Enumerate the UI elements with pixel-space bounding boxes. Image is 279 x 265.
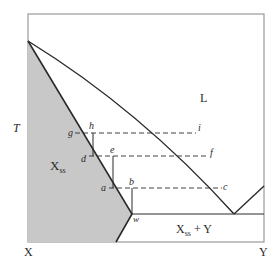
point-label-f: f <box>210 147 214 158</box>
region-label-two-phase: Xss + Y <box>176 222 212 238</box>
phase-diagram: T X Y L Xss Xss + Y g h i d e f a b c w <box>0 0 279 265</box>
axis-label-x: X <box>24 245 33 259</box>
point-label-a: a <box>101 182 106 193</box>
region-label-liquid: L <box>200 91 207 105</box>
point-label-b: b <box>129 176 134 187</box>
axis-label-y: Y <box>259 245 268 259</box>
solid-solution-region <box>28 41 132 242</box>
point-label-c: c <box>223 181 228 192</box>
liquidus-curve-right <box>234 186 264 214</box>
point-label-h: h <box>89 120 94 131</box>
axis-label-temperature: T <box>13 121 21 135</box>
point-label-i: i <box>198 122 201 133</box>
point-label-g: g <box>68 127 73 138</box>
point-label-e: e <box>110 144 115 155</box>
point-label-w: w <box>133 214 139 224</box>
